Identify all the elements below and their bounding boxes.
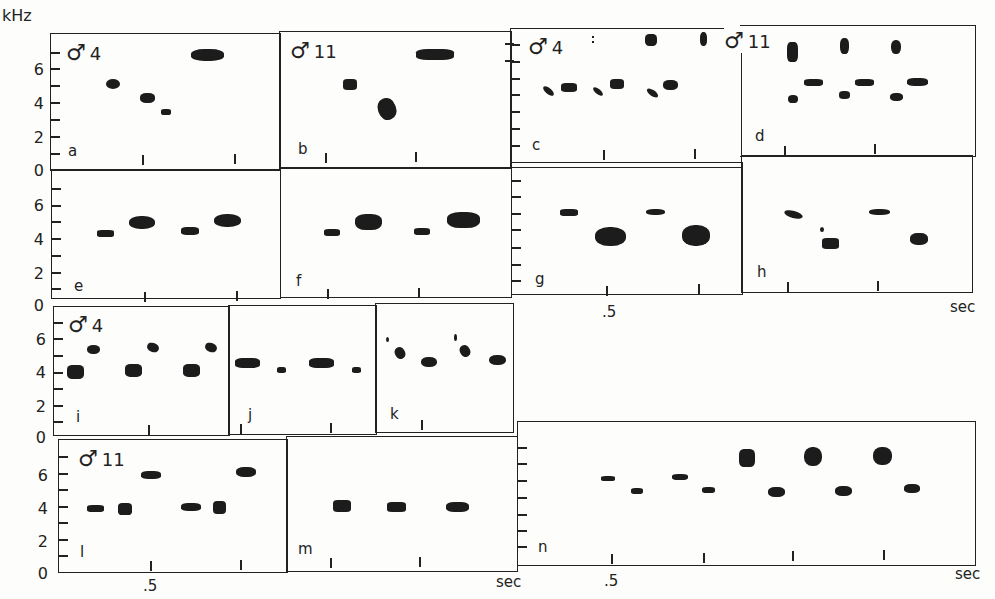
panel-d [740, 25, 976, 157]
male-symbol-icon: ♂ [724, 28, 744, 53]
note-blob [324, 229, 340, 236]
x-tick-mark [142, 155, 144, 165]
note-blob [414, 228, 430, 235]
y-tick-mark [51, 119, 60, 121]
y-tick-mark [518, 514, 527, 516]
note-blob [489, 355, 506, 365]
x-tick-mark [418, 288, 420, 298]
y-tick-mark [52, 272, 61, 274]
note-blob [343, 79, 357, 90]
note-blob [125, 364, 142, 377]
panel-letter-d: d [755, 127, 765, 145]
x-tick-mark [330, 558, 332, 568]
note-blob [631, 488, 643, 494]
x-tick-mark [874, 144, 876, 154]
y-tick-mark [511, 128, 520, 130]
note-blob [183, 364, 200, 377]
note-blob [910, 233, 928, 245]
y-tick-mark [512, 180, 521, 182]
x-tick-mark [240, 560, 242, 570]
note-blob [560, 209, 578, 216]
note-blob [835, 486, 852, 496]
y-tick-4-row3: 4 [26, 363, 46, 382]
y-tick-mark [518, 480, 527, 482]
note-blob [592, 36, 594, 38]
x-tick-mark [419, 557, 421, 567]
y-tick-2-row1: 2 [24, 128, 44, 147]
note-blob [787, 42, 798, 62]
y-tick-mark [512, 213, 521, 215]
y-tick-mark [51, 85, 60, 87]
y-tick-mark [518, 497, 527, 499]
y-tick-mark [54, 388, 63, 390]
panel-letter-i: i [76, 408, 80, 426]
x-tick-mark [421, 420, 423, 430]
panel-n [517, 421, 976, 566]
panel-f [280, 167, 512, 298]
y-tick-mark [54, 421, 63, 423]
y-tick-mark [518, 447, 527, 449]
x-tick-mark [240, 424, 242, 434]
note-blob [421, 357, 437, 367]
y-tick-mark [51, 136, 60, 138]
note-blob [181, 503, 201, 511]
note-blob [702, 487, 715, 493]
y-tick-mark [59, 539, 68, 541]
y-tick-mark [52, 205, 61, 207]
y-tick-mark [59, 473, 68, 475]
note-blob [904, 484, 920, 493]
note-blob [855, 79, 874, 86]
panel-letter-m: m [298, 540, 313, 558]
x-tick-label-row4-left: .5 [143, 577, 157, 595]
note-blob [355, 214, 382, 230]
y-tick-mark [512, 229, 521, 231]
note-blob [352, 367, 361, 373]
x-tick-label-row2: .5 [602, 303, 616, 321]
panel-letter-b: b [298, 140, 308, 158]
y-unit-label: kHz [2, 6, 32, 25]
y-tick-mark [51, 153, 60, 155]
note-blob [236, 467, 256, 477]
y-tick-6-row2: 6 [24, 196, 44, 215]
x-tick-mark [234, 154, 236, 164]
note-blob [891, 40, 901, 54]
note-blob [700, 32, 707, 46]
note-blob [446, 502, 469, 512]
x-tick-mark [784, 146, 786, 156]
sonogram-figure: kHz 6 4 2 0 6 4 2 0 6 4 2 0 6 4 2 0 [0, 0, 995, 599]
note-blob [141, 471, 161, 479]
y-tick-6-row3: 6 [26, 330, 46, 349]
male-label-c: ♂4 [528, 34, 563, 59]
y-tick-mark [52, 288, 61, 290]
panel-letter-n: n [538, 538, 548, 556]
panel-g [511, 162, 743, 295]
y-tick-0-row2: 0 [24, 296, 44, 315]
note-blob [87, 505, 104, 512]
note-blob [601, 476, 615, 481]
x-tick-mark [883, 550, 885, 560]
note-blob [191, 49, 224, 61]
x-tick-mark [792, 551, 794, 561]
y-tick-mark [51, 52, 60, 54]
panel-letter-l: l [80, 543, 84, 561]
y-tick-mark [54, 405, 63, 407]
y-tick-mark [512, 196, 521, 198]
y-tick-mark [52, 238, 61, 240]
x-tick-mark [694, 149, 696, 159]
y-tick-mark [512, 280, 521, 282]
y-tick-mark [511, 78, 520, 80]
note-blob [309, 358, 334, 368]
male-label-a: ♂4 [66, 40, 101, 65]
y-tick-mark [54, 355, 63, 357]
x-tick-mark [698, 284, 700, 294]
y-tick-mark [511, 111, 520, 113]
panel-letter-j: j [248, 406, 252, 424]
note-blob [87, 345, 100, 354]
x-tick-mark [148, 425, 150, 435]
note-blob [869, 209, 890, 215]
y-tick-mark [518, 530, 527, 532]
y-tick-mark [54, 372, 63, 374]
x-tick-mark [877, 281, 879, 291]
note-blob [840, 38, 849, 54]
panel-e [51, 169, 281, 299]
